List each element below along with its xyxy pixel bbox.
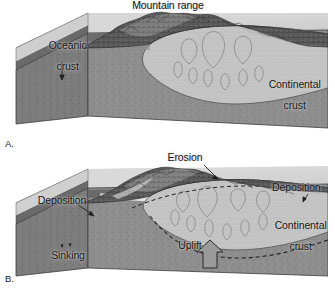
- label-continental-crust-b: Continental crust: [256, 209, 334, 263]
- panel-a-heading: Mountain range: [128, 0, 208, 11]
- oceanic-crust-line1: Oceanic: [49, 39, 87, 51]
- label-uplift: Uplift: [168, 240, 212, 251]
- label-deposition-right: Deposition: [272, 182, 335, 193]
- label-oceanic-crust: Oceanic crust: [31, 29, 93, 83]
- continental-crust-a-line1: Continental: [269, 78, 321, 90]
- panel-b-letter: B.: [5, 273, 14, 284]
- panel-b-heading: Erosion: [155, 152, 215, 163]
- continental-crust-a-line2: crust: [284, 99, 306, 111]
- continental-crust-b-line2: crust: [290, 240, 312, 252]
- panel-a-letter: A.: [5, 138, 14, 149]
- label-sinking: Sinking: [40, 250, 96, 261]
- label-continental-crust-a: Continental crust: [250, 68, 328, 122]
- oceanic-crust-line2: crust: [57, 60, 79, 72]
- continental-crust-b-line1: Continental: [275, 219, 327, 231]
- label-deposition-left: Deposition: [27, 195, 97, 206]
